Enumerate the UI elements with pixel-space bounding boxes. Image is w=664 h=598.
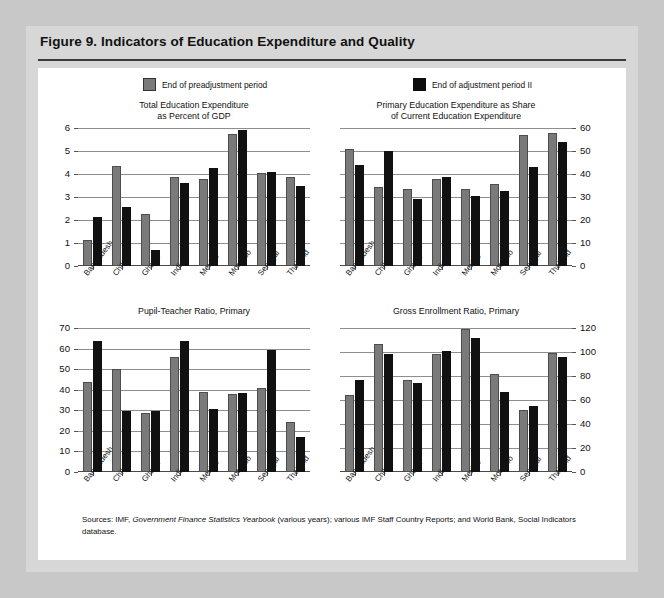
y-tick-label: 2 [44,215,70,224]
bar-thailand-pre [548,353,558,472]
y-tick-label: 30 [580,192,610,201]
axis-tick [74,197,78,198]
chart-title-primary-education-share: Primary Education Expenditure as Shareof… [340,100,572,122]
axis-tick [572,400,576,401]
chart-title-pupil-teacher-ratio: Pupil-Teacher Ratio, Primary [78,306,310,317]
bar-ghana-pre [403,380,413,472]
gridline [78,151,310,152]
source-note: Sources: IMF, Government Finance Statist… [82,514,588,537]
axis-tick [572,243,576,244]
title-rule [38,59,626,61]
bar-chile-adj [122,411,132,472]
bar-india-pre [432,354,442,472]
bar-chile-pre [374,344,384,472]
chart-title-gross-enrollment-ratio: Gross Enrollment Ratio, Primary [340,306,572,317]
axis-tick [74,472,78,473]
bar-chile-pre [112,369,122,472]
bar-chile-adj [384,151,394,266]
plot-area-pupil-teacher-ratio: 010203040506070BangladeshChileGhanaIndia… [78,328,310,472]
axis-tick [572,352,576,353]
legend-item-adjustment: End of adjustment period II [413,78,532,91]
y-tick-label: 5 [44,146,70,155]
y-tick-label: 50 [44,364,70,373]
axis-tick [572,424,576,425]
chart-title-line: Total Education Expenditure [78,100,310,111]
axis-tick [74,451,78,452]
axis-tick [74,174,78,175]
chart-title-line: as Percent of GDP [78,111,310,122]
axis-tick [572,151,576,152]
y-tick-label: 1 [44,238,70,247]
legend-swatch-adjustment [413,78,426,91]
legend-label-preadjustment: End of preadjustment period [162,80,267,90]
y-tick-label: 80 [580,371,610,380]
bar-senegal-pre [519,410,529,472]
gridline [78,328,310,329]
chart-title-line: Gross Enrollment Ratio, Primary [340,306,572,317]
legend-item-preadjustment: End of preadjustment period [143,78,267,91]
y-tick-label: 40 [44,385,70,394]
source-italic-title: Government Finance Statistics Yearbook [132,515,275,524]
chart-title-line: Primary Education Expenditure as Share [340,100,572,111]
bar-chile-pre [374,187,384,266]
bar-bangladesh-pre [345,395,355,472]
figure-card: Figure 9. Indicators of Education Expend… [26,26,638,572]
axis-tick [572,328,576,329]
bar-india-adj [180,341,190,472]
bar-ghana-pre [403,189,413,266]
source-prefix: Sources: IMF, [82,515,132,524]
chart-title-line: of Current Education Expenditure [340,111,572,122]
legend-swatch-preadjustment [143,78,156,91]
y-tick-label: 0 [580,261,610,270]
bar-ghana-pre [141,413,151,472]
y-tick-label: 60 [580,123,610,132]
y-tick-label: 70 [44,323,70,332]
axis-tick [74,266,78,267]
bar-chile-adj [384,354,394,472]
gridline [340,128,572,129]
bar-morocco-adj [238,130,248,266]
legend-label-adjustment: End of adjustment period II [432,80,532,90]
y-tick-label: 60 [44,344,70,353]
plot-area-gross-enrollment-ratio: 020406080100120BangladeshChileGhanaIndia… [340,328,572,472]
bar-mexico-pre [461,329,471,472]
axis-tick [74,243,78,244]
y-tick-label: 40 [580,419,610,428]
chart-total-education-expenditure: Total Education Expenditureas Percent of… [44,100,326,300]
axis-tick [74,431,78,432]
bar-morocco-pre [228,394,238,472]
plot-area-total-education-expenditure: 0123456BangladeshChileGhanaIndiaMexicoMo… [78,128,310,266]
axis-tick [572,266,576,267]
y-tick-label: 20 [580,443,610,452]
axis-tick [572,376,576,377]
y-tick-label: 3 [44,192,70,201]
axis-tick [572,448,576,449]
gridline [340,328,572,329]
figure-title: Figure 9. Indicators of Education Expend… [40,34,415,49]
y-tick-label: 10 [44,446,70,455]
bar-senegal-pre [257,173,267,266]
bar-mexico-adj [471,338,481,472]
axis-tick [572,472,576,473]
y-tick-label: 20 [44,426,70,435]
bar-mexico-pre [199,179,209,266]
chart-pupil-teacher-ratio: Pupil-Teacher Ratio, Primary010203040506… [44,306,326,508]
axis-tick [572,128,576,129]
bar-bangladesh-pre [345,149,355,266]
y-tick-label: 6 [44,123,70,132]
y-tick-label: 0 [44,467,70,476]
axis-tick [74,128,78,129]
bar-senegal-pre [257,388,267,472]
bar-senegal-pre [519,135,529,266]
figure-panel: End of preadjustment period End of adjus… [38,68,626,560]
y-tick-label: 10 [580,238,610,247]
bar-morocco-pre [228,134,238,266]
y-tick-label: 50 [580,146,610,155]
y-tick-label: 60 [580,395,610,404]
bar-india-pre [170,177,180,266]
bar-india-pre [432,179,442,266]
chart-title-line: Pupil-Teacher Ratio, Primary [78,306,310,317]
bar-india-adj [442,177,452,266]
axis-tick [572,197,576,198]
y-tick-label: 0 [44,261,70,270]
